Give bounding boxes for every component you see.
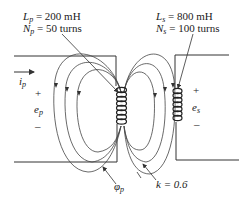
flux-label: φp (114, 180, 124, 196)
secondary-plus-sign: + (193, 84, 199, 96)
flux-arrows (54, 83, 175, 98)
coupling-coefficient-label: k = 0.6 (156, 178, 188, 190)
primary-coil (117, 87, 127, 124)
secondary-voltage-label: es (192, 101, 200, 117)
primary-voltage-label: ep (34, 103, 43, 119)
secondary-coil (173, 88, 182, 120)
secondary-turns-label: Ns = 100 turns (156, 22, 219, 38)
primary-plus-sign: + (35, 87, 41, 99)
mutual-flux-lines (124, 54, 175, 174)
secondary-minus-sign: – (194, 118, 200, 130)
primary-minus-sign: – (35, 120, 41, 132)
primary-flux-lines (54, 54, 121, 172)
primary-turns-label: Np = 50 turns (23, 22, 82, 38)
primary-current-label: ip (19, 75, 26, 91)
secondary-circuit-wires (175, 55, 239, 160)
